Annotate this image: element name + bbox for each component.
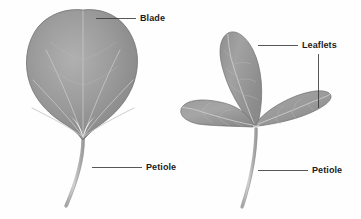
compound-leaf-specimen [181,32,331,207]
simple-leaf-specimen [26,10,137,206]
leaf-structure-figure: Blade Leaflets Petiole Petiole [0,0,361,219]
label-leaflets: Leaflets [302,41,337,50]
compound-leaf-right-leaflet [256,91,331,126]
simple-leaf-blade [26,10,137,140]
leaf-diagram-canvas [0,0,361,219]
label-blade: Blade [140,14,165,23]
simple-leaf-petiole [66,139,83,206]
label-petiole-simple-leaf: Petiole [146,163,176,172]
label-petiole-compound-leaf: Petiole [312,166,342,175]
